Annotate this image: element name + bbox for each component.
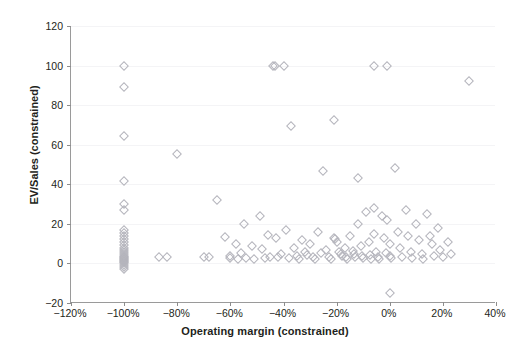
x-tick-mark [71, 302, 72, 306]
x-tick-label: 0% [359, 307, 419, 319]
data-point [369, 229, 379, 239]
data-point [172, 149, 182, 159]
x-tick-mark [390, 302, 391, 306]
x-tick-mark [337, 302, 338, 306]
scatter-chart-figure: EV/Sales (constrained) Operating margin … [0, 0, 530, 357]
y-gridline [71, 145, 495, 146]
x-tick-mark [230, 302, 231, 306]
data-point [395, 243, 405, 253]
data-point [353, 173, 363, 183]
data-point [403, 231, 413, 241]
data-point [247, 241, 257, 251]
x-tick-mark [284, 302, 285, 306]
data-point [464, 76, 474, 86]
y-gridline [71, 263, 495, 264]
x-tick-mark [177, 302, 178, 306]
data-point [287, 121, 297, 131]
y-tick-label: 60 [19, 139, 63, 151]
y-tick-mark [67, 145, 71, 146]
data-point [407, 254, 417, 264]
y-tick-label: 100 [19, 60, 63, 72]
y-tick-label: 20 [19, 218, 63, 230]
x-tick-mark [443, 302, 444, 306]
y-gridline [71, 184, 495, 185]
data-point [318, 166, 328, 176]
data-point [255, 211, 265, 221]
data-point [414, 235, 424, 245]
y-gridline [71, 105, 495, 106]
y-tick-label: 120 [19, 20, 63, 32]
data-point [239, 219, 249, 229]
data-point [231, 239, 241, 249]
data-point [220, 232, 230, 242]
x-tick-label: −100% [93, 307, 153, 319]
y-tick-label: 80 [19, 99, 63, 111]
data-point [385, 288, 395, 298]
data-point [353, 219, 363, 229]
data-point [345, 231, 355, 241]
plot-area [70, 26, 495, 303]
data-point [393, 227, 403, 237]
y-tick-mark [67, 26, 71, 27]
y-tick-mark [67, 66, 71, 67]
y-gridline [71, 224, 495, 225]
x-tick-label: −80% [146, 307, 206, 319]
x-tick-mark [496, 302, 497, 306]
data-point [162, 252, 172, 262]
data-point [119, 82, 129, 92]
x-tick-label: −120% [40, 307, 100, 319]
x-tick-label: 20% [412, 307, 472, 319]
data-point [329, 115, 339, 125]
data-point [257, 244, 267, 254]
data-point [119, 205, 129, 215]
data-point [119, 61, 129, 71]
x-tick-mark [124, 302, 125, 306]
y-tick-mark [67, 263, 71, 264]
data-point [281, 225, 291, 235]
y-tick-label: 40 [19, 178, 63, 190]
data-point [397, 253, 407, 263]
y-tick-mark [67, 224, 71, 225]
x-axis-title: Operating margin (constrained) [0, 325, 530, 337]
x-tick-label: −60% [199, 307, 259, 319]
y-tick-label: 0 [19, 257, 63, 269]
y-tick-mark [67, 184, 71, 185]
data-point [204, 253, 214, 263]
data-point [443, 237, 453, 247]
x-tick-label: 40% [465, 307, 525, 319]
y-tick-mark [67, 105, 71, 106]
x-tick-label: −20% [306, 307, 366, 319]
data-point [401, 205, 411, 215]
data-point [411, 219, 421, 229]
data-point [422, 209, 432, 219]
data-point [369, 61, 379, 71]
data-point [279, 61, 289, 71]
x-tick-label: −40% [253, 307, 313, 319]
data-point [390, 164, 400, 174]
y-gridline [71, 26, 495, 27]
data-point [382, 61, 392, 71]
data-point [313, 227, 323, 237]
data-point [212, 195, 222, 205]
data-point [119, 131, 129, 141]
